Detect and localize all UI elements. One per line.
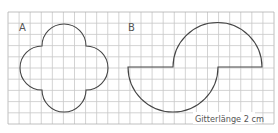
shape-b-s-curve — [128, 23, 262, 113]
grid-figure: A B Gitterlänge 2 cm — [0, 0, 278, 133]
shape-b-label: B — [128, 22, 135, 33]
grid-length-caption: Gitterlänge 2 cm — [195, 114, 264, 124]
grid-lines — [8, 12, 274, 124]
shape-a-label: A — [19, 22, 26, 33]
